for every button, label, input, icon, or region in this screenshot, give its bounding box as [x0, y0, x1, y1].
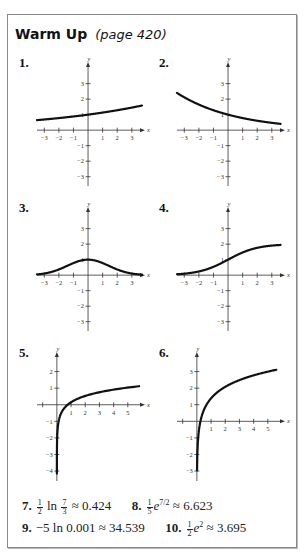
- y-tick-label: −2: [77, 157, 84, 164]
- function-curve: [37, 260, 142, 275]
- y-tick-label: 2: [190, 384, 193, 391]
- x-tick-label: −1: [70, 279, 77, 286]
- x-tick-label: 2: [256, 134, 259, 141]
- y-tick-label: −1: [77, 142, 84, 149]
- y-axis-label: y: [227, 55, 231, 62]
- answer-7-number: 7.: [22, 498, 32, 513]
- answer-9-number: 9.: [22, 520, 32, 535]
- y-axis-label: y: [55, 345, 59, 352]
- answer-8-number: 8.: [132, 498, 142, 513]
- page-reference: (page 420): [95, 27, 167, 42]
- y-tick-label: 3: [221, 225, 224, 232]
- x-tick-label: 5: [266, 425, 269, 432]
- x-tick-label: 1: [69, 409, 72, 416]
- x-tick-label: 3: [270, 134, 273, 141]
- x-axis-arrow: [280, 419, 285, 423]
- answer-10-number: 10.: [165, 520, 181, 535]
- y-tick-label: 3: [190, 368, 193, 375]
- graph-number: 4.: [159, 200, 169, 215]
- y-tick-label: −1: [217, 287, 224, 294]
- graph-3: 3.xy−3−2−1123−3−2−1123: [15, 200, 150, 335]
- y-axis-label: y: [195, 345, 199, 352]
- y-tick-label: 3: [221, 80, 224, 87]
- answer-8-exponent: 7/2: [159, 498, 169, 507]
- answer-7-value: ≈ 0.424: [68, 498, 111, 513]
- y-tick-label: −2: [186, 451, 193, 458]
- y-tick-label: 1: [50, 384, 53, 391]
- y-tick-label: 1: [190, 401, 193, 408]
- answer-row-1: 7.12 ln 73 ≈ 0.424 8.15e7/2 ≈ 6.623: [22, 494, 246, 516]
- y-axis-arrow: [55, 352, 59, 357]
- x-axis-label: x: [286, 126, 290, 133]
- answer-9-expr: −5 ln 0.001 ≈ 34.539: [36, 520, 145, 535]
- y-axis-label: y: [87, 55, 91, 62]
- y-tick-label: −2: [217, 302, 224, 309]
- y-tick-label: 3: [81, 80, 84, 87]
- x-axis-label: x: [286, 271, 290, 278]
- x-tick-label: 1: [241, 134, 244, 141]
- x-tick-label: 1: [241, 279, 244, 286]
- fraction: 15: [147, 499, 153, 516]
- x-tick-label: 2: [256, 279, 259, 286]
- y-tick-label: 2: [81, 95, 84, 102]
- x-tick-label: 3: [238, 425, 241, 432]
- x-axis-arrow: [140, 128, 145, 132]
- graph-number: 1.: [19, 55, 29, 70]
- y-axis-arrow: [195, 352, 199, 357]
- x-axis-label: x: [146, 271, 150, 278]
- y-tick-label: −3: [217, 173, 224, 180]
- graph-6: 6.xy12345−3−2−1123: [155, 345, 290, 485]
- fraction: 12: [37, 499, 43, 516]
- y-tick-label: −4: [46, 467, 54, 474]
- x-tick-label: −2: [55, 279, 62, 286]
- graph-number: 2.: [159, 55, 169, 70]
- x-tick-label: −2: [195, 134, 202, 141]
- x-axis-arrow: [280, 128, 285, 132]
- y-axis-arrow: [226, 62, 230, 67]
- answer-10-value: ≈ 3.695: [203, 520, 246, 535]
- x-tick-label: 2: [224, 425, 227, 432]
- x-tick-label: −1: [210, 279, 217, 286]
- y-axis-label: y: [227, 200, 231, 207]
- x-tick-label: −2: [55, 134, 62, 141]
- y-tick-label: 3: [81, 225, 84, 232]
- graph-number: 6.: [159, 345, 169, 360]
- y-tick-label: −2: [46, 434, 53, 441]
- section-title: Warm Up(page 420): [15, 26, 167, 42]
- graph-number: 5.: [19, 345, 29, 360]
- fraction: 12: [187, 521, 193, 538]
- x-tick-label: 3: [130, 279, 133, 286]
- x-tick-label: 4: [252, 425, 256, 432]
- y-tick-label: 2: [81, 240, 84, 247]
- x-tick-label: 2: [84, 409, 87, 416]
- x-tick-label: −3: [41, 134, 48, 141]
- x-tick-label: 5: [126, 409, 129, 416]
- function-curve: [197, 370, 276, 471]
- x-axis-label: x: [286, 417, 290, 424]
- y-axis-label: y: [87, 200, 91, 207]
- x-tick-label: 3: [270, 279, 273, 286]
- y-tick-label: −3: [46, 451, 53, 458]
- function-curve: [37, 106, 142, 121]
- y-tick-label: −1: [46, 418, 53, 425]
- x-tick-label: −1: [210, 134, 217, 141]
- y-axis-arrow: [86, 62, 90, 67]
- y-tick-label: 2: [221, 95, 224, 102]
- y-tick-label: −3: [217, 318, 224, 325]
- x-tick-label: 4: [112, 409, 116, 416]
- answer-8-value: ≈ 6.623: [170, 498, 213, 513]
- y-tick-label: 2: [50, 368, 53, 375]
- x-tick-label: 2: [116, 134, 119, 141]
- graph-4: 4.xy−3−2−1123−3−2−1123: [155, 200, 290, 335]
- graph-1: 1.xy−3−2−1123−3−2−1123: [15, 55, 150, 190]
- x-tick-label: 3: [130, 134, 133, 141]
- graph-number: 3.: [19, 200, 29, 215]
- x-axis-label: x: [146, 126, 150, 133]
- y-axis-arrow: [226, 207, 230, 212]
- y-tick-label: 2: [221, 240, 224, 247]
- function-curve: [57, 386, 139, 473]
- title-text: Warm Up: [15, 26, 87, 42]
- y-axis-arrow: [86, 207, 90, 212]
- y-tick-label: −2: [217, 157, 224, 164]
- fraction: 73: [61, 499, 67, 516]
